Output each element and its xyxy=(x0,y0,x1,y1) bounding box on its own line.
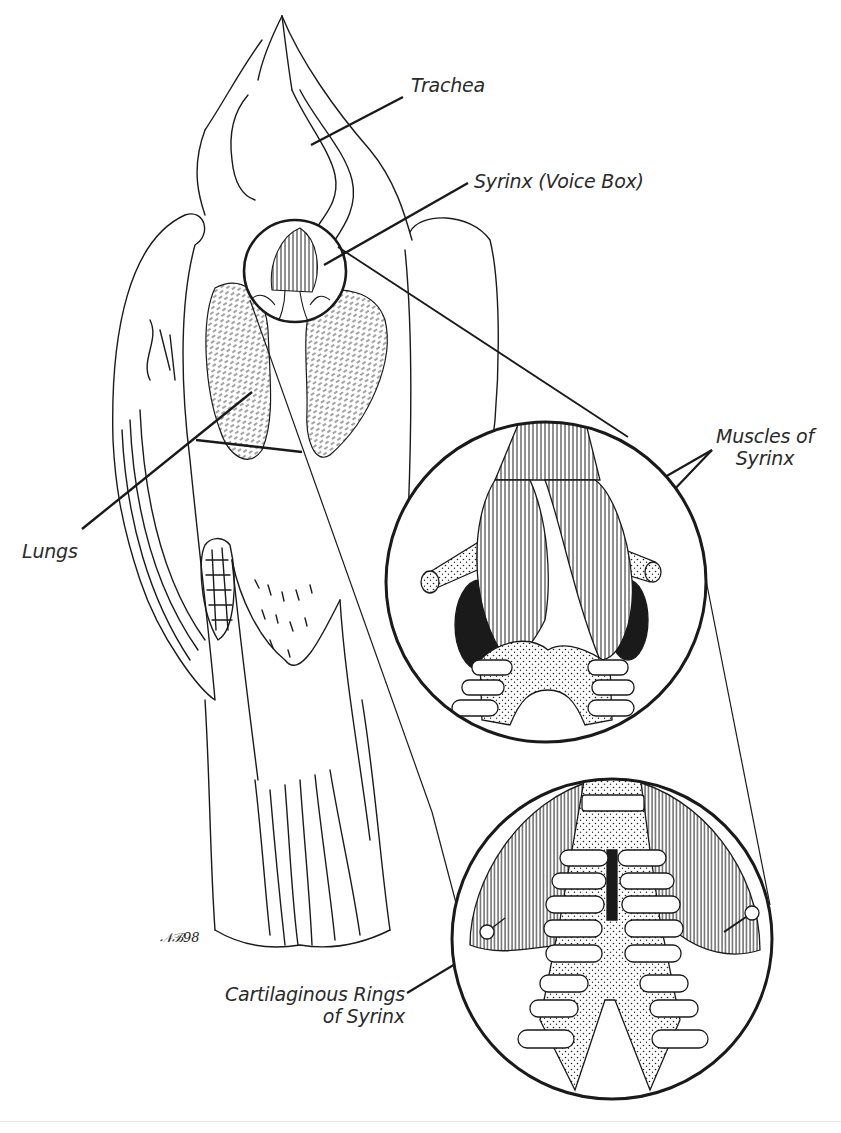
label-rings-line2: of Syrinx xyxy=(205,1005,405,1027)
label-syrinx: Syrinx (Voice Box) xyxy=(474,170,644,192)
bottom-divider xyxy=(0,1121,841,1122)
label-lungs: Lungs xyxy=(22,540,78,562)
label-muscles-line1: Muscles of xyxy=(700,425,830,447)
bird-illustration xyxy=(0,0,841,1133)
signature-monogram-icon: 𝒩ℬ xyxy=(160,930,183,945)
label-muscles-of-syrinx: Muscles of Syrinx xyxy=(700,425,830,469)
artist-signature: 𝒩ℬ98 xyxy=(160,930,200,946)
label-cartilaginous-rings: Cartilaginous Rings of Syrinx xyxy=(205,983,405,1027)
anatomy-figure: Trachea Syrinx (Voice Box) Muscles of Sy… xyxy=(0,0,841,1133)
label-trachea: Trachea xyxy=(411,74,485,96)
signature-year: 98 xyxy=(183,930,200,945)
label-muscles-line2: Syrinx xyxy=(700,447,830,469)
label-rings-line1: Cartilaginous Rings xyxy=(205,983,405,1005)
